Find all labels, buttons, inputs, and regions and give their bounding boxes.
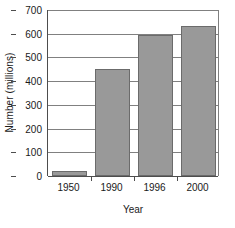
gridline: [48, 176, 218, 177]
y-axis-tick-label: 700: [25, 5, 42, 16]
bar-chart: Number (millions) 0100200300400500600700…: [0, 0, 235, 228]
y-axis-tick-label: 200: [25, 123, 42, 134]
bar: [181, 26, 215, 176]
y-axis-tick-mark: [11, 152, 16, 153]
x-axis-tick-label: 2000: [186, 182, 208, 193]
y-axis-tick-label: 400: [25, 76, 42, 87]
x-axis-title: Year: [47, 204, 219, 215]
plot-area: [47, 10, 219, 176]
y-axis-tick-mark: [11, 81, 16, 82]
y-axis-tick-mark: [11, 105, 16, 106]
bars-layer: [48, 10, 218, 176]
y-axis-tick-mark: [11, 34, 16, 35]
bar: [95, 69, 129, 176]
y-axis-tick-labels: 0100200300400500600700: [16, 10, 42, 176]
x-axis-tick-labels: 1950199019962000: [47, 182, 219, 198]
y-axis-tick-mark: [11, 129, 16, 130]
x-axis-tick-label: 1950: [57, 182, 79, 193]
y-axis-tick-label: 500: [25, 52, 42, 63]
y-axis-tick-label: 100: [25, 147, 42, 158]
y-axis-title-text: Number (millions): [4, 52, 15, 132]
x-axis-tick-label: 1996: [143, 182, 165, 193]
y-axis-tick-label: 300: [25, 99, 42, 110]
y-axis-tick-mark: [11, 10, 16, 11]
x-axis-tick-label: 1990: [100, 182, 122, 193]
bar: [138, 35, 172, 176]
bar: [52, 171, 86, 176]
y-axis-tick-mark: [11, 176, 16, 177]
x-axis-tick-mark: [134, 176, 135, 181]
y-axis-tick-label: 0: [36, 171, 42, 182]
y-axis-tick-mark: [11, 57, 16, 58]
y-axis-tick-label: 600: [25, 28, 42, 39]
x-axis-tick-mark: [177, 176, 178, 181]
x-axis-tick-mark: [91, 176, 92, 181]
